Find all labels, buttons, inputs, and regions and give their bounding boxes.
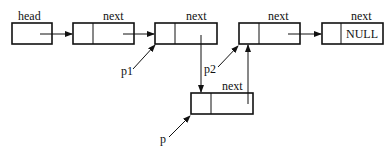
list-node-1: next <box>73 9 134 44</box>
node-label: next <box>186 9 207 23</box>
null-value: NULL <box>346 27 378 41</box>
node-label: next <box>103 9 124 23</box>
node-label: next <box>222 79 243 93</box>
list-node-4: next NULL <box>322 9 383 44</box>
node-label: head <box>18 9 41 23</box>
pointer-p2-arrow <box>218 46 238 67</box>
head-node: head <box>12 9 52 44</box>
linked-list-diagram: head next next next next NULL next <box>0 0 390 157</box>
list-node-3: next <box>239 9 300 44</box>
list-node-2: next <box>155 9 217 44</box>
pointer-label-p1: p1 <box>121 64 133 78</box>
pointer-label-p2: p2 <box>204 62 216 76</box>
new-node: next <box>191 79 253 114</box>
node-label: next <box>351 9 372 23</box>
pointer-p1-arrow <box>133 45 155 69</box>
pointer-label-p: p <box>160 132 166 146</box>
pointer-p-arrow <box>169 116 190 137</box>
node-label: next <box>268 9 289 23</box>
